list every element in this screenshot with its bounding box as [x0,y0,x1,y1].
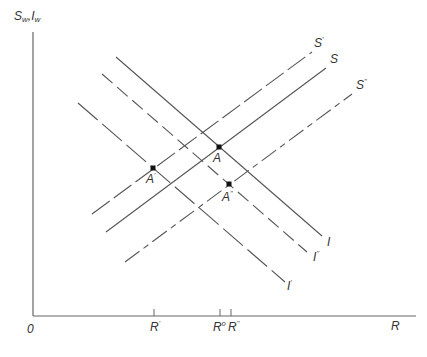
x-axis-label: R [391,320,400,332]
point-a-prime [151,166,156,171]
origin-label: 0 [27,323,34,335]
label-point-a-prime: A' [146,172,155,185]
curve-i-dprime [102,74,307,252]
y-axis-label: Sw,Iw [14,10,40,24]
curve-i-prime [78,103,285,282]
curve-s-prime [92,52,312,214]
curve-s [106,68,326,232]
point-a-dprime [227,182,232,187]
curve-s-dprime [125,94,352,262]
label-s-dprime: S'' [356,78,367,91]
label-i-prime: I' [287,279,292,292]
tick-label-r-dprime: R'' [228,320,239,333]
tick-label-r-prime: R' [150,320,160,333]
label-s-prime: S' [314,36,323,49]
tick-label-r-zero: Ro [213,320,226,333]
label-point-a: A [213,152,221,164]
point-a [217,145,222,150]
label-i: I [327,236,330,248]
label-i-dprime: I'' [313,250,319,263]
diagram-canvas [0,0,427,357]
label-s: S [330,53,338,65]
label-point-a-dprime: A'' [222,190,233,203]
